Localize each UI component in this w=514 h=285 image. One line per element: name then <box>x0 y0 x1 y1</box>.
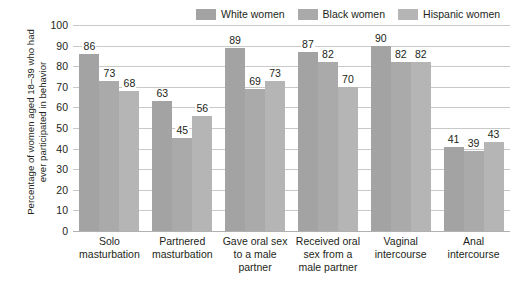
y-axis-tick-label: 60 <box>56 102 68 112</box>
x-axis-category-label: Analintercourse <box>437 235 510 261</box>
bar-item[interactable]: 68 <box>119 25 139 231</box>
bar-value-label: 90 <box>374 33 388 44</box>
y-axis-tick-label: 20 <box>56 185 68 195</box>
bar[interactable] <box>318 62 338 231</box>
bar[interactable] <box>79 54 99 231</box>
y-axis-tick-label: 10 <box>56 205 68 215</box>
bar-value-label: 82 <box>394 49 408 60</box>
bar[interactable] <box>464 151 484 231</box>
y-axis-tick-label: 40 <box>56 144 68 154</box>
bar-item[interactable]: 43 <box>484 25 504 231</box>
bar[interactable] <box>411 62 431 231</box>
legend-item-black-women: Black women <box>298 9 385 20</box>
bar-item[interactable]: 39 <box>464 25 484 231</box>
bar-groups: 867368634556896973878270908282413943 <box>73 25 510 231</box>
bar[interactable] <box>484 142 504 231</box>
bar-group: 878270 <box>292 25 365 231</box>
bar-item[interactable]: 82 <box>391 25 411 231</box>
bar-item[interactable]: 45 <box>172 25 192 231</box>
x-axis-category-label: Vaginalintercourse <box>364 235 437 261</box>
bar-group: 413943 <box>437 25 510 231</box>
x-axis-category-label: Solomasturbation <box>73 235 146 261</box>
bar-value-label: 39 <box>467 138 481 149</box>
bar-value-label: 68 <box>123 78 137 89</box>
bar-value-label: 41 <box>447 134 461 145</box>
bar-group: 867368 <box>73 25 146 231</box>
y-axis-tick-label: 30 <box>56 164 68 174</box>
y-axis-tick-label: 50 <box>56 123 68 133</box>
bar[interactable] <box>192 116 212 231</box>
bar[interactable] <box>338 87 358 231</box>
bar-group: 908282 <box>364 25 437 231</box>
chart-legend: White women Black women Hispanic women <box>196 7 500 21</box>
bar-item[interactable]: 69 <box>245 25 265 231</box>
x-axis-category-label: Partneredmasturbation <box>146 235 219 261</box>
bar-item[interactable]: 87 <box>298 25 318 231</box>
legend-item-white-women: White women <box>196 9 285 20</box>
bar-item[interactable]: 70 <box>338 25 358 231</box>
legend-swatch-icon <box>398 9 418 20</box>
bar-item[interactable]: 56 <box>192 25 212 231</box>
bar-value-label: 89 <box>228 35 242 46</box>
bar[interactable] <box>371 46 391 231</box>
bar[interactable] <box>152 101 172 231</box>
bar-item[interactable]: 89 <box>225 25 245 231</box>
bar[interactable] <box>391 62 411 231</box>
plot-area: 867368634556896973878270908282413943 <box>73 25 510 231</box>
bar-value-label: 70 <box>341 74 355 85</box>
bar-value-label: 43 <box>487 129 501 140</box>
bar-value-label: 73 <box>268 68 282 79</box>
x-axis-category-label: Received oralsex from amale partner <box>292 235 365 274</box>
bar-item[interactable]: 41 <box>444 25 464 231</box>
bar-item[interactable]: 82 <box>411 25 431 231</box>
bar-item[interactable]: 73 <box>99 25 119 231</box>
bar-item[interactable]: 63 <box>152 25 172 231</box>
bar-value-label: 73 <box>103 68 117 79</box>
bar-item[interactable]: 73 <box>265 25 285 231</box>
bar-value-label: 69 <box>248 76 262 87</box>
legend-item-hispanic-women: Hispanic women <box>398 9 500 20</box>
bar[interactable] <box>99 81 119 231</box>
bar-item[interactable]: 86 <box>79 25 99 231</box>
bar-value-label: 87 <box>301 39 315 50</box>
x-axis-labels: SolomasturbationPartneredmasturbationGav… <box>73 235 510 283</box>
bar-value-label: 63 <box>155 88 169 99</box>
gridline <box>73 231 510 232</box>
bar[interactable] <box>298 52 318 231</box>
y-axis-tick-label: 0 <box>62 226 68 236</box>
bar[interactable] <box>225 48 245 231</box>
bar-value-label: 86 <box>83 41 97 52</box>
y-axis-tick-label: 100 <box>50 20 68 30</box>
bar[interactable] <box>245 89 265 231</box>
x-axis-category-label: Gave oral sexto a malepartner <box>219 235 292 274</box>
bar-item[interactable]: 90 <box>371 25 391 231</box>
bar-item[interactable]: 82 <box>318 25 338 231</box>
bar[interactable] <box>119 91 139 231</box>
bar-value-label: 82 <box>321 49 335 60</box>
legend-label: Black women <box>323 9 385 20</box>
bar[interactable] <box>265 81 285 231</box>
bar[interactable] <box>444 147 464 231</box>
y-axis-ticks: 1009080706050403020100 <box>45 25 71 231</box>
legend-label: Hispanic women <box>423 9 500 20</box>
bar-chart: White women Black women Hispanic women P… <box>0 0 514 285</box>
y-axis-tick-label: 70 <box>56 82 68 92</box>
legend-swatch-icon <box>298 9 318 20</box>
legend-swatch-icon <box>196 9 216 20</box>
legend-label: White women <box>221 9 285 20</box>
y-axis-tick-label: 90 <box>56 41 68 51</box>
bar-value-label: 45 <box>175 125 189 136</box>
y-axis-tick-label: 80 <box>56 61 68 71</box>
bar-value-label: 56 <box>195 103 209 114</box>
bar-value-label: 82 <box>414 49 428 60</box>
bar-group: 896973 <box>219 25 292 231</box>
bar-group: 634556 <box>146 25 219 231</box>
bar[interactable] <box>172 138 192 231</box>
